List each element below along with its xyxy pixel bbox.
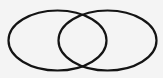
venn-diagram: [0, 0, 163, 78]
